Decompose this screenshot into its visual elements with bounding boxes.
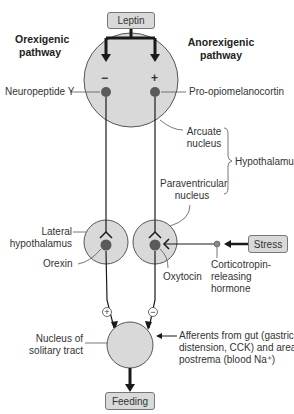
pomc-sign: + [151,72,158,84]
afferents-label: Afferents from gut (gastric distension, … [179,330,294,366]
crh-label: Corticotropin- releasing hormone [211,259,271,295]
oxytocin-neuron [150,240,161,251]
paraventricular-label: Paraventricular nucleus [160,178,224,202]
leptin-box: Leptin [107,12,155,29]
excitatory-sign: + [102,306,112,318]
orexigenic-pathway-label: Orexigenic pathway [15,33,65,59]
crh-neuron [214,241,220,247]
hypothalamus-label: Hypothalamus [235,156,294,168]
orexin-label: Orexin [43,258,72,270]
arcuate-label: Arcuate nucleus [184,126,224,150]
arcuate-nucleus-circle [84,33,178,127]
npy-label: Neuropeptide Y [5,86,74,98]
stress-box: Stress [248,235,288,253]
inhibitory-sign: − [148,306,158,318]
nts-circle [107,322,153,368]
lateral-hypothalamus-label: Lateral hypothalamus [6,226,72,250]
npy-sign: − [101,72,108,84]
npy-neuron [101,87,111,97]
oxytocin-label: Oxytocin [163,271,202,283]
orexin-neuron [101,240,112,251]
feeding-box: Feeding [105,392,155,410]
anorexigenic-pathway-label: Anorexigenic pathway [186,36,256,62]
pomc-neuron [150,87,160,97]
nts-label: Nucleus of solitary tract [20,333,83,357]
pomc-label: Pro-opiomelanocortin [189,86,284,98]
